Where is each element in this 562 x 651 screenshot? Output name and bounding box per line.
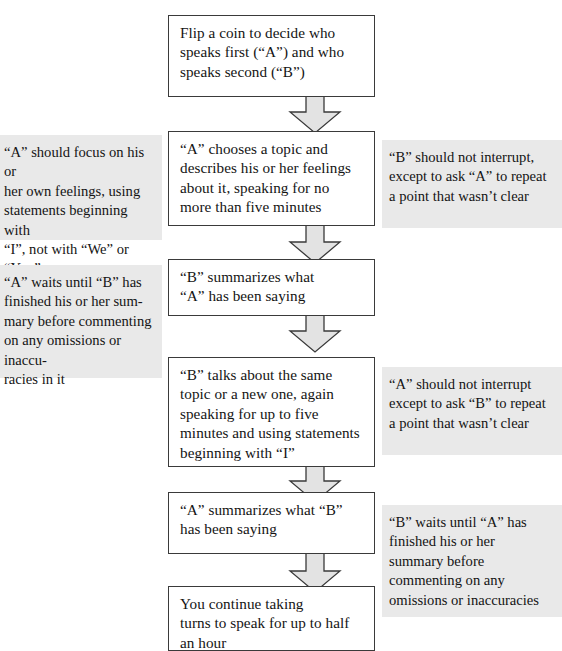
process-box-1-text: Flip a coin to decide who speaks first (… <box>180 23 364 81</box>
annotation-right-1: “B” should not interrupt, except to ask … <box>382 140 562 228</box>
annotation-left-1-text: “A” should focus on his or her own feeli… <box>4 143 156 279</box>
annotation-right-2: “A” should not interrupt except to ask “… <box>382 367 562 455</box>
annotation-left-1: “A” should focus on his or her own feeli… <box>0 135 162 240</box>
process-box-3-text: “B” summarizes what “A” has been saying <box>180 267 364 306</box>
annotation-left-2: “A” waits until “B” has finished his or … <box>0 265 162 378</box>
process-box-6-text: You continue taking turns to speak for u… <box>180 594 364 651</box>
process-box-4-text: “B” talks about the same topic or a new … <box>180 365 364 462</box>
annotation-right-2-text: “A” should not interrupt except to ask “… <box>389 375 556 433</box>
process-box-4: “B” talks about the same topic or a new … <box>168 357 375 467</box>
annotation-right-1-text: “B” should not interrupt, except to ask … <box>389 148 556 206</box>
annotation-right-3-text: “B” waits until “A” has finished his or … <box>389 513 556 610</box>
process-box-2: “A” chooses a topic and describes his or… <box>168 131 375 226</box>
annotation-left-2-text: “A” waits until “B” has finished his or … <box>4 273 156 389</box>
process-box-2-text: “A” chooses a topic and describes his or… <box>180 139 364 217</box>
process-box-6: You continue taking turns to speak for u… <box>168 586 375 651</box>
process-box-5: “A” summarizes what “B” has been saying <box>168 492 375 554</box>
process-box-5-text: “A” summarizes what “B” has been saying <box>180 500 364 539</box>
flowchart-canvas: “A” should focus on his or her own feeli… <box>0 0 562 651</box>
annotation-right-3: “B” waits until “A” has finished his or … <box>382 505 562 617</box>
process-box-3: “B” summarizes what “A” has been saying <box>168 259 375 316</box>
process-box-1: Flip a coin to decide who speaks first (… <box>168 15 375 97</box>
